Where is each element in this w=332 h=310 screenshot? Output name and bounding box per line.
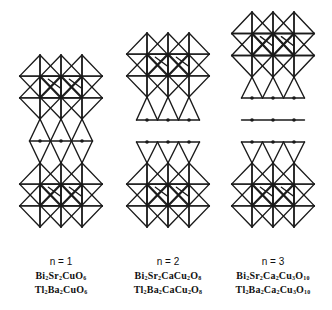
bi-formula-n1: Bi2Sr2CuO6 <box>6 271 116 281</box>
structure-n2 <box>127 33 210 227</box>
n-label-n1: n = 1 <box>6 257 116 267</box>
n-label-n2: n = 2 <box>113 257 223 267</box>
bi-formula-n2: Bi2Sr2CaCu2O8 <box>113 271 223 281</box>
n-label-n3: n = 3 <box>218 257 328 267</box>
structure-n1 <box>20 55 103 227</box>
structure-n3 <box>232 12 315 227</box>
tl-formula-n1: Tl2Ba2CuO6 <box>6 285 116 295</box>
bi-formula-n3: Bi2Sr2Ca2Cu3O10 <box>218 271 328 281</box>
tl-formula-n2: Tl2Ba2CaCu2O8 <box>113 285 223 295</box>
tl-formula-n3: Tl2Ba2Ca2Cu3O10 <box>218 285 328 295</box>
